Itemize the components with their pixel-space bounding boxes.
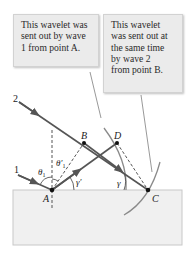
theta1-prime-label: θ′1 [56,158,65,169]
callout-b-line-5: from point B. [111,64,177,75]
ray-2-arrow-lower [84,143,120,170]
ray-2-arrow-upper [19,102,36,114]
wavefront-line-dc [117,143,148,190]
point-d [115,141,119,145]
callout-b-pointer [141,95,152,172]
label-b: B [81,130,87,141]
gamma-prime-arc [70,177,74,190]
point-c [146,188,151,193]
ray-2-label: 2 [13,93,18,104]
callout-b-line-1: This wavelet [111,19,177,30]
callout-wavelet-b: This wavelet was sent out at the same ti… [103,14,183,93]
callout-a-pointer [90,72,101,118]
callout-b-line-4: by wave 2 [111,53,177,64]
theta1-prime-arc [52,179,58,181]
callout-a-line-1: This wavelet was [21,19,93,30]
point-a [50,188,55,193]
ray-1-incident-arrow [18,175,35,183]
theta1-label: θ1 [38,167,45,178]
callout-a-line-2: sent out by wave [21,30,93,41]
point-b [82,141,86,145]
callout-a-line-3: 1 from point A. [21,42,93,53]
callout-b-line-3: the same time [111,42,177,53]
label-d: D [113,130,122,141]
gamma-prime-label: γ′ [76,177,83,187]
callout-wavelet-a: This wavelet was sent out by wave 1 from… [13,14,99,67]
label-a: A [42,193,50,204]
label-c: C [152,193,159,204]
callout-b-line-2: was sent out at [111,30,177,41]
theta1-arc [40,177,52,185]
ray-1-label: 1 [14,164,19,175]
gamma-label: γ [117,178,121,188]
